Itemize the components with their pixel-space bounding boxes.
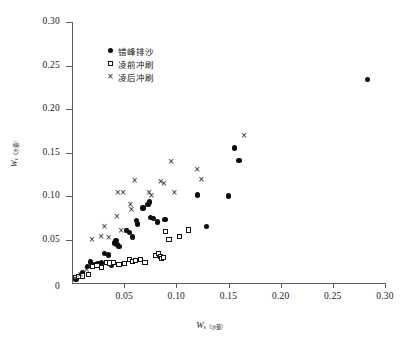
x-axis-title-sub: s（沙量）	[204, 324, 226, 330]
y-tick-label: 0.15	[20, 147, 60, 157]
data-point-filled-circle	[195, 192, 200, 197]
plot-area	[72, 22, 385, 283]
data-point-cross	[148, 192, 155, 199]
y-tick-label: 0.30	[20, 16, 60, 26]
data-point-open-square	[99, 265, 104, 270]
data-point-cross	[120, 189, 127, 196]
y-tick-label: 0	[28, 281, 60, 291]
data-point-open-square	[177, 234, 182, 239]
data-point-cross	[168, 158, 175, 165]
x-tick-mark	[176, 283, 177, 288]
data-point-cross	[131, 177, 138, 184]
data-point-open-square	[161, 255, 166, 260]
x-axis-title-main: W	[196, 320, 204, 330]
y-tick-label: 0.25	[20, 60, 60, 70]
x-tick-mark	[229, 283, 230, 288]
data-point-filled-circle	[116, 244, 121, 249]
x-tick-mark	[281, 283, 282, 288]
data-point-filled-circle	[155, 219, 160, 224]
data-point-open-square	[163, 229, 168, 234]
x-tick-label: 0.15	[209, 291, 249, 301]
y-axis-title: Wc（水量）	[10, 113, 19, 193]
data-point-filled-circle	[162, 217, 167, 222]
data-point-open-square	[166, 237, 171, 242]
data-point-cross	[83, 266, 90, 273]
data-point-cross	[88, 236, 95, 243]
x-tick-label: 0.30	[365, 291, 402, 301]
data-point-cross	[241, 132, 248, 139]
data-point-filled-circle	[130, 234, 135, 239]
data-point-cross	[198, 176, 205, 183]
x-axis-title: Ws（沙量）	[161, 320, 261, 330]
y-tick-label: 0.20	[20, 103, 60, 113]
data-point-filled-circle	[147, 199, 152, 204]
data-point-filled-circle	[365, 77, 370, 82]
x-tick-mark	[385, 283, 386, 288]
data-point-filled-circle	[204, 224, 209, 229]
data-point-filled-circle	[106, 252, 111, 257]
x-tick-mark	[333, 283, 334, 288]
y-axis-title-sub: c（水量）	[13, 138, 19, 160]
data-point-open-square	[186, 227, 191, 232]
x-tick-mark	[124, 283, 125, 288]
data-point-cross	[171, 189, 178, 196]
data-point-cross	[128, 206, 135, 213]
y-axis-title-main: W	[10, 160, 19, 167]
data-point-cross	[194, 166, 201, 173]
data-point-open-square	[142, 260, 147, 265]
data-point-cross	[105, 234, 112, 241]
scatter-chart: 00.050.100.150.200.250.30 0.050.100.150.…	[0, 0, 402, 348]
data-point-filled-circle	[135, 221, 140, 226]
data-point-filled-circle	[232, 145, 237, 150]
y-tick-label: 0.05	[20, 234, 60, 244]
x-tick-label: 0.20	[261, 291, 301, 301]
data-point-cross	[113, 213, 120, 220]
x-tick-label: 0.25	[313, 291, 353, 301]
data-point-cross	[98, 233, 105, 240]
data-point-filled-circle	[236, 158, 241, 163]
x-tick-label: 0.05	[104, 291, 144, 301]
y-tick-label: 0.10	[20, 190, 60, 200]
data-point-cross	[160, 180, 167, 187]
data-point-cross	[123, 227, 130, 234]
x-tick-label: 0.10	[156, 291, 196, 301]
data-point-filled-circle	[226, 193, 231, 198]
data-point-cross	[101, 223, 108, 230]
